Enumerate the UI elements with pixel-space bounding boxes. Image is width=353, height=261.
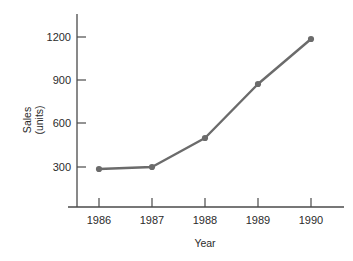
x-tick-label-1989: 1989 [246,214,270,226]
x-axis-title: Year [194,237,216,249]
y-axis-title-line2: (units) [33,105,45,134]
y-tick-label-300: 300 [53,161,71,173]
x-tick-label-1990: 1990 [299,214,323,226]
data-point-1989 [255,81,261,87]
data-point-1987 [149,164,155,170]
x-tick-label-1988: 1988 [193,214,217,226]
y-axis-title-line1: Sales [21,107,33,133]
x-tick-label-1986: 1986 [87,214,111,226]
y-tick-label-600: 600 [53,117,71,129]
line-chart: 1200 900 600 300 1986 1987 1988 1989 199… [0,0,353,261]
data-point-1990 [308,36,314,42]
y-tick-label-900: 900 [53,74,71,86]
y-tick-label-1200: 1200 [47,31,71,43]
chart-figure: 1200 900 600 300 1986 1987 1988 1989 199… [0,0,353,261]
x-tick-label-1987: 1987 [140,214,164,226]
data-point-1988 [202,135,208,141]
y-axis-title: Sales (units) [21,105,45,134]
data-point-1986 [96,166,102,172]
